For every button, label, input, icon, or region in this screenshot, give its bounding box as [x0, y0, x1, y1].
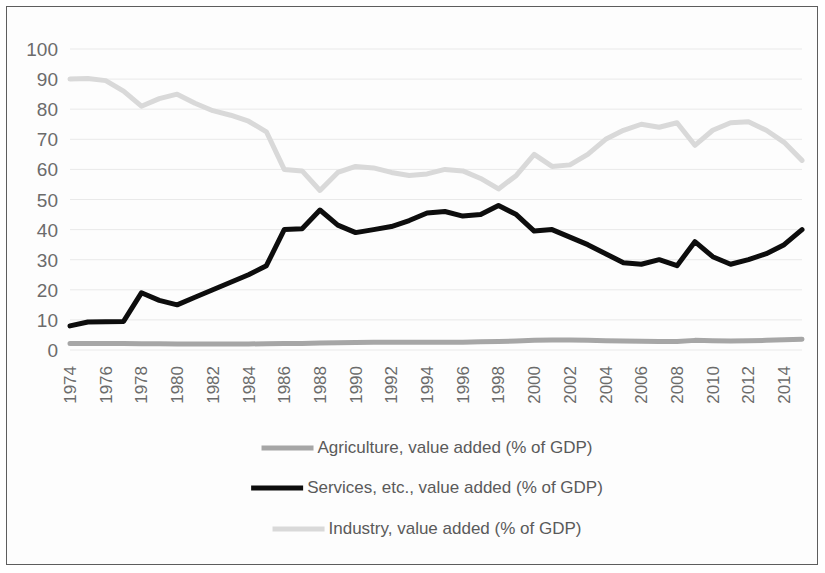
y-axis-tick-label: 100	[26, 39, 58, 60]
x-axis-tick-label: 1982	[204, 366, 223, 404]
x-axis-tick-label: 1990	[347, 366, 366, 404]
x-axis-tick-label: 2008	[668, 366, 687, 404]
x-axis-tick-label: 1984	[240, 366, 259, 404]
y-axis-tick-label: 60	[37, 159, 58, 180]
y-axis-tick-label: 0	[47, 340, 58, 361]
x-axis-tick-label: 1976	[97, 366, 116, 404]
x-axis-tick-label: 1980	[168, 366, 187, 404]
y-axis-tick-label: 20	[37, 280, 58, 301]
data-series	[70, 79, 802, 344]
x-axis-tick-label: 2010	[704, 366, 723, 404]
series-line-1	[70, 206, 802, 326]
legend-label: Industry, value added (% of GDP)	[329, 519, 582, 538]
y-axis-tick-label: 30	[37, 250, 58, 271]
x-axis-tick-label: 1994	[418, 366, 437, 404]
legend-label: Agriculture, value added (% of GDP)	[318, 438, 593, 457]
x-axis-tick-labels: 1974197619781980198219841986198819901992…	[61, 366, 794, 404]
y-axis-tick-label: 50	[37, 190, 58, 211]
x-axis-tick-label: 2014	[775, 366, 794, 404]
chart-container: 0102030405060708090100 19741976197819801…	[6, 6, 818, 565]
x-axis-tick-label: 2012	[739, 366, 758, 404]
y-axis-tick-label: 40	[37, 220, 58, 241]
x-axis-tick-label: 2004	[597, 366, 616, 404]
line-chart: 0102030405060708090100 19741976197819801…	[7, 7, 817, 564]
x-axis-tick-label: 1978	[132, 366, 151, 404]
legend-label: Services, etc., value added (% of GDP)	[307, 478, 603, 497]
y-axis-tick-label: 70	[37, 129, 58, 150]
x-axis-tick-label: 2006	[632, 366, 651, 404]
y-axis-tick-label: 80	[37, 99, 58, 120]
x-axis-tick-label: 1998	[489, 366, 508, 404]
x-axis-tick-label: 1988	[311, 366, 330, 404]
chart-legend: Agriculture, value added (% of GDP)Servi…	[251, 438, 603, 538]
x-axis-tick-label: 1974	[61, 366, 80, 404]
x-axis-tick-label: 2000	[525, 366, 544, 404]
y-axis-tick-labels: 0102030405060708090100	[26, 39, 58, 361]
y-axis-tick-label: 10	[37, 310, 58, 331]
series-line-0	[70, 339, 802, 344]
y-axis-tick-label: 90	[37, 69, 58, 90]
x-axis-tick-label: 1992	[382, 366, 401, 404]
x-axis-tick-label: 2002	[561, 366, 580, 404]
x-axis-tick-label: 1986	[275, 366, 294, 404]
x-axis-tick-label: 1996	[454, 366, 473, 404]
series-line-2	[70, 79, 802, 191]
